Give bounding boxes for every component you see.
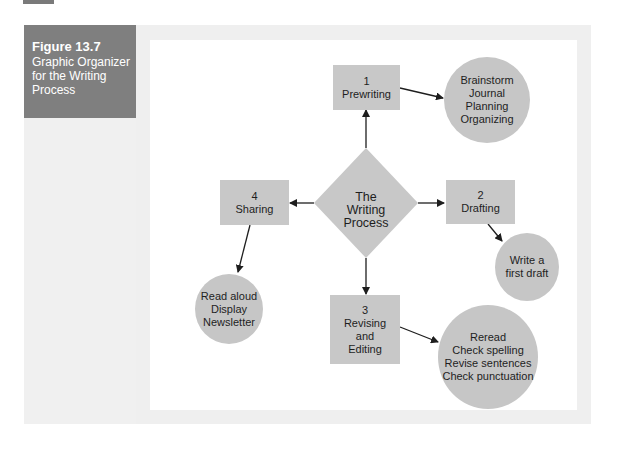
step-3-revising-box: 3 Revising and Editing [330, 295, 400, 364]
step-4-sharing-box: 4 Sharing [220, 180, 289, 225]
step-3-details-circle: Reread Check spelling Revise sentences C… [438, 305, 538, 409]
diagram-connectors [0, 0, 621, 462]
step-1-prewriting-box: 1 Prewriting [333, 65, 400, 110]
step-4-details-circle: Read aloud Display Newsletter [195, 274, 263, 344]
center-label: The Writing Process [316, 185, 416, 235]
step-2-details-circle: Write a first draft [495, 233, 559, 301]
step-2-drafting-box: 2 Drafting [446, 180, 515, 224]
step-1-details-circle: Brainstorm Journal Planning Organizing [444, 57, 530, 143]
